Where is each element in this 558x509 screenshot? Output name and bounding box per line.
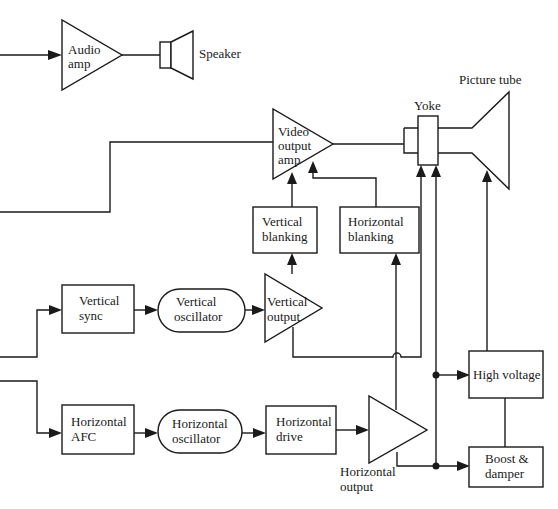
- vout-to-vblank-wire: [287, 253, 297, 274]
- high-voltage-block: High voltage: [469, 351, 543, 398]
- boost-damper-label-1: Boost &: [485, 451, 529, 466]
- audio-amp-block: Audio amp: [62, 20, 122, 90]
- vertical-output-label-2: output: [267, 309, 301, 324]
- vertical-oscillator-label-1: Vertical: [176, 294, 217, 309]
- horizontal-blanking-block: Horizontal blanking: [340, 207, 419, 253]
- horizontal-blanking-label-2: blanking: [348, 229, 394, 244]
- vertical-oscillator-label-2: oscillator: [174, 309, 223, 324]
- high-voltage-label: High voltage: [473, 367, 541, 382]
- vsync-to-vosc-wire: [134, 305, 158, 315]
- audio-amp-label-1: Audio: [68, 42, 101, 57]
- audio-amp-label-2: amp: [68, 56, 90, 71]
- vertical-sync-block: Vertical sync: [62, 285, 134, 333]
- horizontal-oscillator-label-2: oscillator: [172, 431, 221, 446]
- vertical-blanking-label-1: Vertical: [262, 214, 303, 229]
- sync-input-wire-vertical: [0, 305, 62, 357]
- horizontal-blanking-label-1: Horizontal: [348, 214, 404, 229]
- tv-receiver-block-diagram: Audio amp Speaker Video output amp Yoke …: [0, 0, 558, 509]
- video-output-amp-label-1: Video: [278, 124, 309, 139]
- horizontal-drive-label-2: drive: [276, 429, 303, 444]
- horizontal-bus-wire: [431, 165, 441, 470]
- horizontal-drive-label-1: Horizontal: [276, 414, 332, 429]
- bus-to-high-voltage-wire: [433, 370, 471, 380]
- picture-tube-label: Picture tube: [459, 72, 522, 87]
- vout-to-yoke-wire: [293, 165, 426, 357]
- vertical-blanking-block: Vertical blanking: [253, 207, 317, 253]
- horizontal-afc-label-1: Horizontal: [71, 414, 127, 429]
- audio-input-wire: [0, 50, 62, 60]
- vblank-to-video-wire: [287, 172, 297, 207]
- horizontal-output-label-2: output: [340, 479, 374, 494]
- vertical-sync-label-1: Vertical: [79, 293, 120, 308]
- hblank-to-video-wire: [308, 161, 376, 207]
- horizontal-afc-block: Horizontal AFC: [62, 405, 134, 454]
- vertical-blanking-label-2: blanking: [262, 229, 308, 244]
- speaker-label: Speaker: [199, 46, 242, 61]
- vertical-output-label-1: Vertical: [267, 294, 308, 309]
- boost-damper-label-2: damper: [485, 466, 525, 481]
- boost-damper-block: Boost & damper: [469, 447, 543, 487]
- horizontal-oscillator-label-1: Horizontal: [172, 416, 228, 431]
- video-input-wire: [0, 142, 273, 212]
- speaker-icon: [160, 31, 193, 79]
- vertical-sync-label-2: sync: [79, 308, 103, 323]
- horizontal-afc-label-2: AFC: [71, 429, 96, 444]
- horizontal-output-block: [369, 396, 427, 463]
- vertical-oscillator-block: Vertical oscillator: [158, 289, 245, 332]
- yoke-block: [418, 116, 438, 165]
- horizontal-drive-block: Horizontal drive: [266, 406, 336, 454]
- video-output-amp-label-3: amp: [278, 152, 300, 167]
- hafc-to-hosc-wire: [134, 428, 158, 438]
- video-output-amp-label-2: output: [278, 138, 312, 153]
- hout-to-hblank-wire: [391, 253, 401, 410]
- yoke-label: Yoke: [414, 98, 441, 113]
- video-output-amp-block: Video output amp: [273, 109, 333, 179]
- hosc-to-hdrive-wire: [242, 428, 266, 438]
- horizontal-oscillator-block: Horizontal oscillator: [158, 410, 242, 453]
- horizontal-output-label-1: Horizontal: [340, 464, 396, 479]
- hv-to-tube-wire: [482, 170, 492, 351]
- sync-input-wire-horizontal: [0, 381, 62, 438]
- hdrive-to-hout-wire: [336, 425, 369, 435]
- vosc-to-vout-wire: [245, 305, 265, 315]
